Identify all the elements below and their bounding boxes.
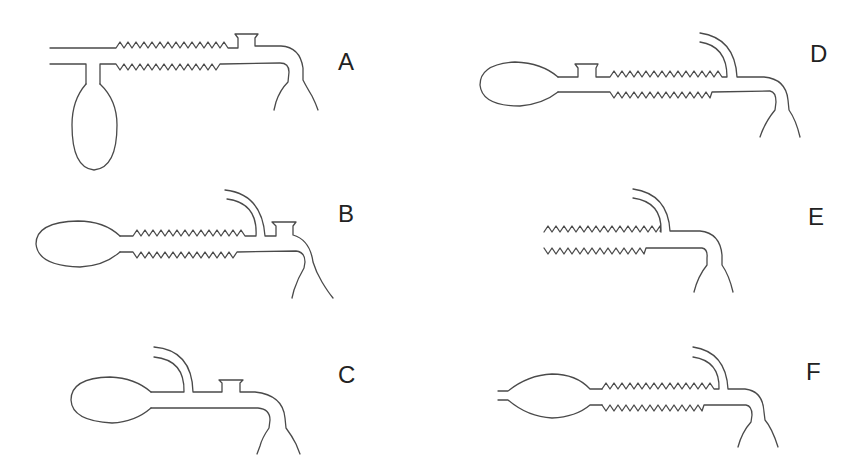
panel-f-bottom-wall [602,405,752,447]
panel-c-gooseneck-outer [154,347,300,454]
apparatus-diagram: A B C D E F [0,0,858,466]
panel-b-gooseneck-outer [225,190,333,298]
panel-b-top-wall [120,199,256,236]
panel-d: D [480,33,827,137]
panel-f-top-wall [602,357,719,389]
panel-a-bottom-wall-left [50,64,86,84]
panel-label-a: A [338,48,354,75]
panel-label-c: C [338,361,355,388]
panel-f-gooseneck-outer [693,347,778,447]
panel-d-bottom-wall [558,91,776,137]
panel-label-d: D [810,40,827,67]
panel-a-bottom-wall-right [100,63,289,110]
panel-d-gooseneck-outer [700,33,800,137]
panel-e: E [544,189,824,292]
panel-c-bulb [71,377,151,423]
panel-a-bulb [72,84,117,170]
panel-d-bulb [480,62,558,106]
panel-c: C [71,347,355,454]
panel-c-bottom-wall [151,408,270,454]
panel-e-bottom-wall [544,248,707,292]
panel-b-bulb [36,221,120,267]
panel-label-e: E [808,203,824,230]
panel-d-top-wall [558,42,727,77]
panel-f-bulb-bottom [498,400,602,418]
panel-b: B [36,190,354,298]
panel-b-bottom-wall [120,251,305,298]
panel-f-bulb-top [498,374,602,391]
panel-f: F [498,347,821,447]
panel-c-top-wall [151,357,184,392]
panel-label-b: B [338,200,354,227]
panel-a: A [50,34,354,170]
panel-label-f: F [806,358,821,385]
panel-e-top-wall [544,198,661,232]
panel-e-gooseneck-outer [633,189,733,292]
